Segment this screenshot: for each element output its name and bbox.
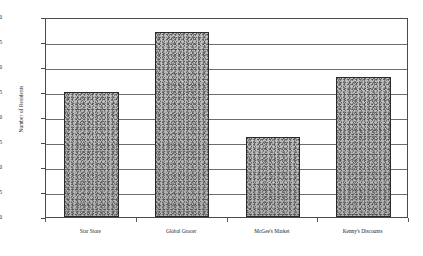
bar-chart: Number of Residents 0510152025303540 Sta… bbox=[0, 0, 423, 256]
y-axis-title: Number of Residents bbox=[14, 0, 28, 218]
x-tick-label: McGee's Market bbox=[254, 229, 289, 234]
bar[interactable] bbox=[336, 77, 390, 217]
bar-slot bbox=[137, 19, 228, 217]
bar-slot bbox=[228, 19, 319, 217]
y-axis-title-text: Number of Residents bbox=[18, 86, 24, 133]
x-tick-mark bbox=[136, 218, 137, 222]
bar[interactable] bbox=[64, 92, 118, 217]
y-tick-label: 15 bbox=[0, 140, 2, 145]
x-tick-label: Global Grocer bbox=[166, 229, 196, 234]
y-tick-label: 10 bbox=[0, 165, 2, 170]
x-tick-mark bbox=[45, 218, 46, 222]
bar-slot bbox=[46, 19, 137, 217]
x-tick-label: Kenny's Discounts bbox=[343, 229, 383, 234]
y-tick-label: 25 bbox=[0, 90, 2, 95]
x-tick-label: Star Store bbox=[80, 229, 101, 234]
plot-area bbox=[45, 18, 408, 218]
y-tick-label: 40 bbox=[0, 15, 2, 20]
x-tick-mark bbox=[317, 218, 318, 222]
y-tick-label: 30 bbox=[0, 65, 2, 70]
y-tick-label: 5 bbox=[0, 190, 2, 195]
y-tick-label: 35 bbox=[0, 40, 2, 45]
x-tick-mark bbox=[408, 218, 409, 222]
bar[interactable] bbox=[155, 32, 209, 217]
y-tick-label: 0 bbox=[0, 215, 2, 220]
bar-slot bbox=[318, 19, 409, 217]
y-tick-label: 20 bbox=[0, 115, 2, 120]
x-tick-mark bbox=[227, 218, 228, 222]
bar[interactable] bbox=[246, 137, 300, 217]
bars-layer bbox=[46, 19, 407, 217]
